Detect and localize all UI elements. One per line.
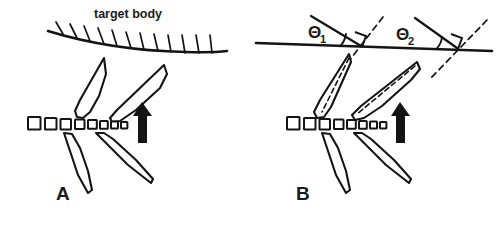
diagram-canvas: target body: [0, 0, 497, 234]
square-item: [45, 118, 57, 130]
target-body-label: target body: [94, 7, 162, 21]
direction-arrow-b: [391, 102, 410, 143]
panel-label-b: B: [296, 183, 310, 204]
square-item: [370, 122, 377, 129]
square-item: [380, 122, 386, 128]
theta2-arc: [437, 37, 442, 48]
square-item: [304, 118, 316, 130]
square-item: [359, 121, 367, 129]
square-item: [61, 119, 72, 130]
target-body-surface-a: [48, 22, 227, 53]
theta2-incline-line: [415, 18, 457, 48]
upper-right-blade-axis-b: [357, 66, 415, 114]
panel-b: Θ 1 Θ 2: [256, 16, 492, 204]
square-item: [111, 122, 118, 129]
lower-left-blade-b: [322, 133, 350, 193]
panel-a: target body: [28, 7, 227, 204]
figure-root: target body: [0, 0, 497, 234]
square-item: [334, 120, 344, 130]
upper-left-blade-a: [75, 58, 106, 118]
square-item: [28, 117, 41, 130]
upper-left-blade-axis-b: [322, 58, 349, 112]
theta2-subscript: 2: [408, 35, 414, 47]
square-row-b: [287, 117, 386, 130]
square-item: [75, 120, 85, 130]
panel-label-a: A: [56, 183, 70, 204]
square-item: [121, 122, 127, 128]
square-item: [320, 119, 331, 130]
square-item: [347, 120, 356, 129]
square-item: [100, 121, 108, 129]
upper-left-blade-b: [314, 54, 351, 118]
square-item: [88, 120, 97, 129]
theta1-subscript: 1: [320, 33, 326, 45]
square-item: [287, 117, 300, 130]
